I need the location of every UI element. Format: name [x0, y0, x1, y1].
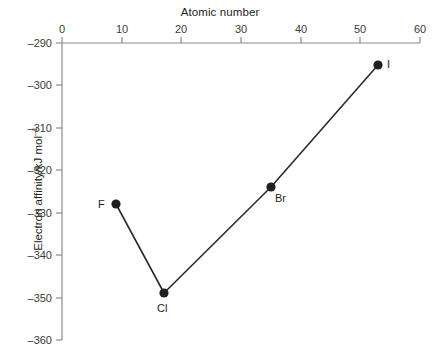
y-tick-label-290: –290 — [12, 37, 52, 49]
point-label-cl: Cl — [157, 302, 167, 314]
y-tick-label-310: –310 — [12, 122, 52, 134]
chart-canvas: Atomic number Electron affinity/kJ mol–1 — [0, 0, 440, 363]
point-label-f: F — [98, 198, 105, 210]
data-point-cl[interactable] — [159, 288, 168, 297]
x-tick-label-50: 50 — [354, 23, 366, 35]
x-tick-label-40: 40 — [295, 23, 307, 35]
x-tick-label-10: 10 — [116, 23, 128, 35]
x-axis-ticks — [62, 37, 420, 43]
y-tick-label-330: –330 — [12, 207, 52, 219]
y-tick-label-360: –360 — [12, 334, 52, 346]
data-markers — [111, 60, 382, 297]
data-point-f[interactable] — [111, 199, 120, 208]
data-point-i[interactable] — [373, 60, 382, 69]
y-tick-label-340: –340 — [12, 249, 52, 261]
point-label-br: Br — [275, 192, 286, 204]
x-tick-label-0: 0 — [59, 23, 65, 35]
y-tick-label-320: –320 — [12, 164, 52, 176]
point-label-i: I — [387, 58, 390, 70]
y-tick-label-300: –300 — [12, 79, 52, 91]
x-tick-label-20: 20 — [175, 23, 187, 35]
data-line — [116, 65, 378, 293]
plot-area — [0, 0, 440, 363]
x-tick-label-30: 30 — [235, 23, 247, 35]
y-tick-label-350: –350 — [12, 292, 52, 304]
data-point-br[interactable] — [266, 182, 275, 191]
y-axis-ticks — [56, 43, 62, 340]
x-tick-label-60: 60 — [414, 23, 426, 35]
